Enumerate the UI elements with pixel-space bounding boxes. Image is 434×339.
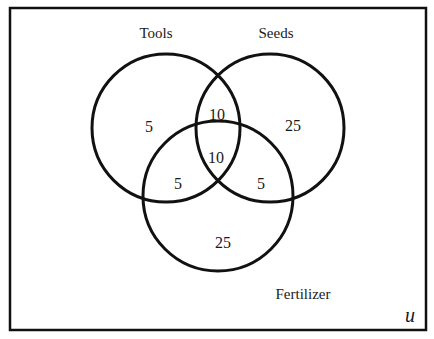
tools-label: Tools bbox=[139, 25, 172, 41]
region-seeds-fertilizer: 5 bbox=[257, 175, 265, 192]
seeds-circle bbox=[196, 54, 344, 202]
venn-diagram: Tools Seeds Fertilizer 5 25 25 10 5 5 10… bbox=[0, 0, 434, 339]
seeds-label: Seeds bbox=[259, 25, 294, 41]
region-fertilizer-only: 25 bbox=[215, 234, 231, 251]
universe-label: u bbox=[405, 304, 415, 326]
region-tools-seeds: 10 bbox=[209, 106, 225, 123]
region-seeds-only: 25 bbox=[285, 117, 301, 134]
region-all-three: 10 bbox=[208, 149, 224, 166]
fertilizer-label: Fertilizer bbox=[276, 286, 331, 302]
universe-frame bbox=[10, 8, 426, 330]
region-tools-fertilizer: 5 bbox=[174, 175, 182, 192]
region-tools-only: 5 bbox=[145, 118, 153, 135]
